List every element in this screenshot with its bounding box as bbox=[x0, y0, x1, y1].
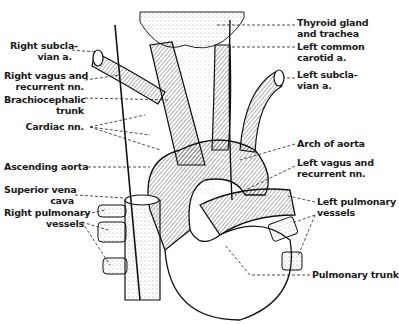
label-right-subclavian: Right subcla-vian a. bbox=[10, 40, 72, 62]
label-left-pulmonary-vessels: Left pulmonaryvessels bbox=[317, 196, 396, 218]
label-arch-of-aorta: Arch of aorta bbox=[297, 138, 365, 149]
label-ascending-aorta: Ascending aorta bbox=[4, 161, 86, 172]
label-cardiac-nerves: Cardiac nn. bbox=[20, 121, 84, 132]
label-right-vagus: Right vagus andrecurrent nn. bbox=[4, 70, 84, 92]
label-brachiocephalic-trunk: Brachiocephalictrunk bbox=[4, 94, 84, 116]
label-pulmonary-trunk: Pulmonary trunk bbox=[312, 269, 399, 280]
label-thyroid-trachea: Thyroid glandand trachea bbox=[297, 17, 368, 39]
label-left-vagus: Left vagus andrecurrent nn. bbox=[297, 157, 374, 179]
label-left-common-carotid: Left commoncarotid a. bbox=[297, 41, 365, 63]
label-right-pulmonary-vessels: Right pulmonaryvessels bbox=[4, 207, 84, 229]
label-superior-vena-cava: Superior venacava bbox=[4, 184, 74, 206]
label-left-subclavian: Left subcla-vian a. bbox=[297, 69, 358, 91]
